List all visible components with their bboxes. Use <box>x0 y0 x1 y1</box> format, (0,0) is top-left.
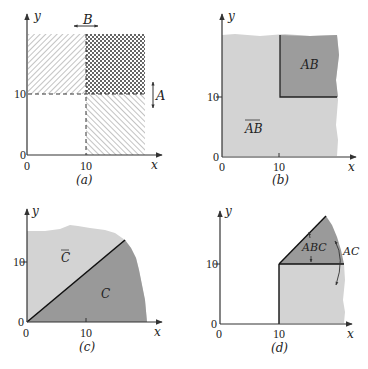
panel-a <box>27 14 162 155</box>
y-tick-10-d: 10 <box>206 257 218 271</box>
y-tick-10-b: 10 <box>207 90 219 104</box>
caption-b: (b) <box>272 173 289 187</box>
y-tick-10-c: 10 <box>13 255 25 269</box>
y-tick-10-a: 10 <box>14 87 26 101</box>
x-axis-label-b: x <box>348 160 355 174</box>
region-label-ab: AB <box>300 58 319 72</box>
panel-c <box>21 209 162 322</box>
region-abc <box>279 216 344 264</box>
x-axis-label-a: x <box>151 158 158 172</box>
region-ac-lower <box>279 264 345 323</box>
x-tick-0-b: 0 <box>219 160 225 174</box>
x-tick-10-a: 10 <box>80 159 92 173</box>
caption-d: (d) <box>271 341 288 355</box>
x-axis-label-d: x <box>347 327 354 341</box>
region-label-not-c: C <box>61 251 70 265</box>
event-label-a: A <box>155 88 165 103</box>
region-b-only <box>86 94 145 155</box>
region-label-ac: AC <box>342 245 360 258</box>
y-axis-label-c: y <box>31 204 39 218</box>
panel-d <box>214 211 352 324</box>
x-tick-10-b: 10 <box>273 160 285 174</box>
figure-canvas: y x 0 10 0 10 B A (a) y x 0 10 0 10 AB A… <box>0 0 368 369</box>
x-tick-0-d: 0 <box>216 327 222 341</box>
x-axis-label-c: x <box>154 325 161 339</box>
caption-c: (c) <box>79 340 95 354</box>
region-ab-crosshatch <box>86 34 145 94</box>
y-axis-label-d: y <box>224 204 232 218</box>
panel-b <box>216 14 356 157</box>
x-tick-10-d: 10 <box>273 327 285 341</box>
caption-a: (a) <box>76 173 93 187</box>
region-a-only <box>28 34 86 94</box>
event-label-b: B <box>82 12 93 27</box>
region-label-not-ab: AB <box>244 122 263 136</box>
region-label-abc: ABC <box>301 241 327 254</box>
y-axis-label-b: y <box>227 9 235 23</box>
x-tick-0-c: 0 <box>23 326 29 340</box>
y-axis-label-a: y <box>33 9 41 23</box>
x-tick-10-c: 10 <box>80 326 92 340</box>
region-label-c: C <box>101 287 110 301</box>
x-tick-0-a: 0 <box>24 159 30 173</box>
